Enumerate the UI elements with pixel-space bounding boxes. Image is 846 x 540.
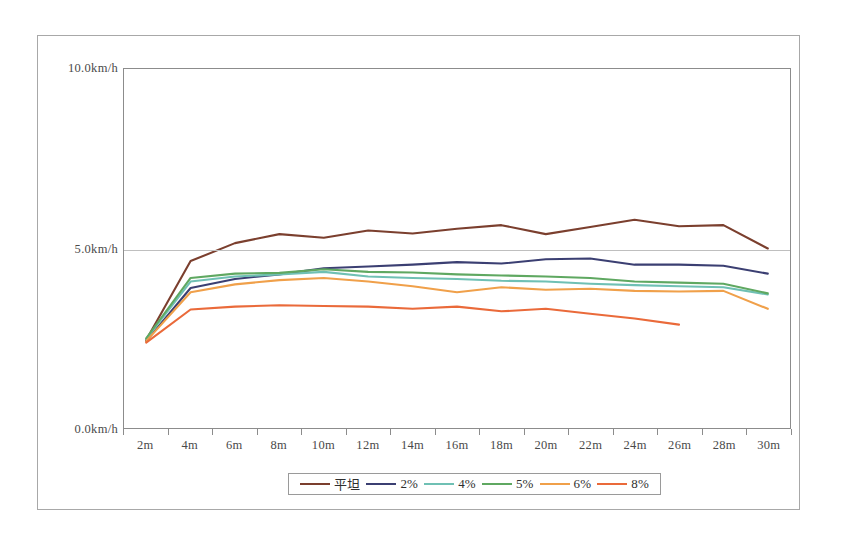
x-axis-tick-label: 4m [182,438,199,453]
x-axis-tick [390,429,391,435]
legend-label: 5% [516,476,534,492]
x-axis-tick [613,429,614,435]
y-axis-tick-label: 0.0km/h [75,422,118,437]
legend-item[interactable]: 5% [479,476,537,492]
series-line-5 [146,305,679,342]
chart-series-svg [124,69,790,428]
x-axis-tick [568,429,569,435]
legend-color-swatch [597,483,627,485]
chart-frame: 10.0km/h5.0km/h0.0km/h 2m4m6m8m10m12m14m… [37,35,800,510]
x-axis-tick-label: 14m [401,438,424,453]
x-axis-tick [168,429,169,435]
legend-item[interactable]: 8% [594,476,652,492]
x-axis-tick [702,429,703,435]
legend-color-swatch [300,483,330,485]
legend-color-swatch [540,483,570,485]
chart-legend: 平坦2%4%5%6%8% [288,473,661,495]
x-axis-tick [301,429,302,435]
x-axis-tick [123,429,124,435]
x-axis-tick [657,429,658,435]
x-axis-tick [212,429,213,435]
series-line-1 [146,259,768,342]
x-axis-tick [791,429,792,435]
x-axis-tick-label: 28m [713,438,736,453]
x-axis-tick-label: 24m [624,438,647,453]
x-axis-tick-label: 26m [668,438,691,453]
x-axis-tick [746,429,747,435]
x-axis-tick-label: 8m [271,438,288,453]
legend-color-swatch [424,483,454,485]
x-axis-tick-label: 30m [757,438,780,453]
legend-color-swatch [482,483,512,485]
x-axis-ticks [123,429,791,437]
x-axis-tick-label: 2m [137,438,154,453]
legend-item[interactable]: 4% [421,476,479,492]
x-axis-labels: 2m4m6m8m10m12m14m16m18m20m22m24m26m28m30… [123,438,791,460]
legend-label: 平坦 [334,474,360,493]
x-axis-tick-label: 22m [579,438,602,453]
x-axis-tick-label: 20m [535,438,558,453]
x-axis-tick [346,429,347,435]
series-line-4 [146,278,768,341]
x-axis-tick [435,429,436,435]
legend-label: 6% [574,476,592,492]
plot-area [123,68,791,429]
legend-label: 4% [458,476,476,492]
legend-label: 2% [400,476,418,492]
x-axis-tick-label: 10m [312,438,335,453]
gridline [124,250,790,251]
x-axis-tick [479,429,480,435]
legend-color-swatch [366,483,396,485]
x-axis-tick [257,429,258,435]
legend-item[interactable]: 6% [537,476,595,492]
legend-label: 8% [631,476,649,492]
y-axis-labels: 10.0km/h5.0km/h0.0km/h [48,68,118,429]
x-axis-tick-label: 6m [226,438,243,453]
x-axis-tick-label: 18m [490,438,513,453]
legend-item[interactable]: 2% [363,476,421,492]
x-axis-tick-label: 12m [356,438,379,453]
y-axis-tick-label: 10.0km/h [68,61,118,76]
x-axis-tick [524,429,525,435]
x-axis-tick-label: 16m [445,438,468,453]
y-axis-tick-label: 5.0km/h [75,241,118,256]
legend-item[interactable]: 平坦 [297,474,363,493]
